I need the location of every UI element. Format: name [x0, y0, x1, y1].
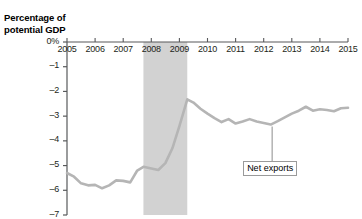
x-tick-label: 2013: [277, 44, 307, 54]
y-tick-label: –7: [29, 209, 59, 219]
net-exports-callout-label: Net exports: [247, 163, 293, 173]
x-tick-label: 2012: [249, 44, 279, 54]
x-tick-label: 2011: [221, 44, 251, 54]
y-tick-label: –5: [29, 159, 59, 169]
x-tick-label: 2015: [333, 44, 362, 54]
x-tick-label: 2005: [52, 44, 82, 54]
net-exports-line: [67, 99, 348, 188]
y-tick-label: –2: [29, 85, 59, 95]
x-tick-label: 2014: [305, 44, 335, 54]
x-tick-label: 2010: [193, 44, 223, 54]
y-tick-label: –1: [29, 60, 59, 70]
y-tick-label: –6: [29, 184, 59, 194]
x-tick-label: 2008: [136, 44, 166, 54]
x-tick-label: 2006: [80, 44, 110, 54]
x-tick-label: 2007: [108, 44, 138, 54]
recession-shaded-band: [143, 42, 187, 215]
y-tick-label: –4: [29, 134, 59, 144]
net-exports-callout: Net exports: [243, 161, 297, 176]
x-tick-label: 2009: [164, 44, 194, 54]
y-tick-label: –3: [29, 110, 59, 120]
